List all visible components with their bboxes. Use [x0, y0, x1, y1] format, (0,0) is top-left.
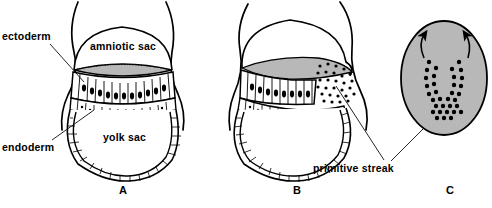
label-endoderm: endoderm	[2, 141, 54, 153]
panel-a-drawing	[62, 2, 184, 182]
label-ectoderm: ectoderm	[2, 30, 51, 42]
panel-b-drawing	[229, 2, 367, 182]
panel-c-drawing	[401, 21, 487, 135]
label-primitive-streak: primitive streak	[313, 162, 394, 174]
panel-letter-a: A	[119, 184, 127, 196]
label-amniotic-sac: amniotic sac	[90, 40, 156, 52]
panel-letter-c: C	[446, 184, 454, 196]
figure-canvas	[0, 0, 492, 208]
label-yolk-sac: yolk sac	[103, 131, 146, 143]
embryology-figure: ectoderm endoderm amniotic sac yolk sac …	[0, 0, 492, 208]
panel-a-yolk-sac	[67, 110, 181, 182]
panel-letter-b: B	[293, 184, 301, 196]
streak-leader-panel-c	[391, 128, 424, 161]
